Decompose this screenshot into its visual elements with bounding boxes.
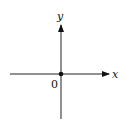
origin-label: 0 <box>51 78 58 91</box>
origin-point <box>59 72 64 77</box>
coordinate-axes-diagram: x y 0 <box>0 0 127 126</box>
x-axis-label: x <box>112 68 119 81</box>
y-axis-label: y <box>56 10 64 23</box>
